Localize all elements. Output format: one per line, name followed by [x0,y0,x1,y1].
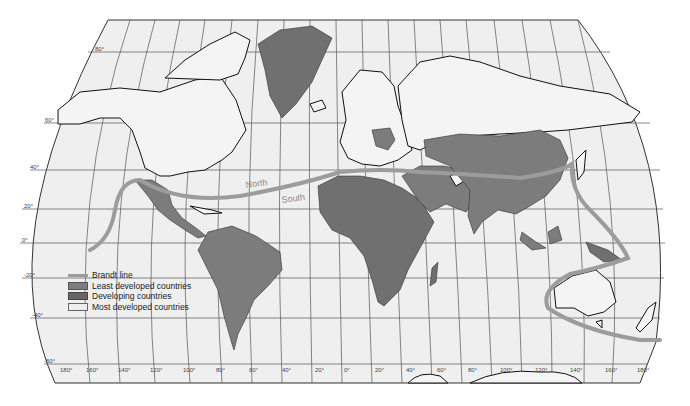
legend-item-brandt-line: Brandt line [68,270,191,280]
legend: Brandt line Least developed countries De… [68,270,191,312]
longitude-tick-label: 160° [605,367,618,373]
latitude-tick-label: 80° [95,46,105,52]
longitude-tick-label: 180° [637,367,650,373]
most-developed-swatch [68,303,88,311]
latitude-tick-label: -40° [32,312,44,318]
latitude-tick-label: 60° [45,117,55,123]
legend-label: Brandt line [92,270,133,280]
longitude-tick-label: 60° [437,367,447,373]
legend-item-least-developed: Least developed countries [68,281,191,291]
least-developed-swatch [68,282,88,290]
longitude-tick-label: 80° [216,367,226,373]
latitude-tick-label: 40° [30,164,40,170]
latitude-tick-label: 0° [22,237,28,243]
longitude-tick-label: 140° [570,367,583,373]
longitude-tick-label: 20° [315,367,325,373]
longitude-tick-label: 120° [150,367,163,373]
longitude-tick-label: 0° [344,367,350,373]
world-map: North South 80°60°40°20°0°-20°-40°-60° 1… [0,0,690,406]
latitude-tick-label: 20° [24,203,34,209]
longitude-tick-label: 100° [500,367,513,373]
longitude-tick-label: 120° [535,367,548,373]
longitude-tick-label: 40° [406,367,416,373]
longitude-tick-label: 40° [282,367,292,373]
latitude-tick-label: -60° [44,358,56,364]
brandt-line-swatch [68,274,88,277]
legend-label: Least developed countries [92,281,191,291]
longitude-tick-label: 140° [118,367,131,373]
legend-label: Developing countries [92,291,171,301]
legend-label: Most developed countries [92,302,189,312]
longitude-tick-label: 180° [60,367,73,373]
longitude-tick-label: 60° [249,367,259,373]
longitude-tick-label: 160° [86,367,99,373]
longitude-tick-label: 20° [375,367,385,373]
legend-item-developing: Developing countries [68,291,191,301]
longitude-tick-label: 80° [468,367,478,373]
longitude-tick-label: 100° [183,367,196,373]
latitude-tick-label: -20° [24,272,36,278]
developing-swatch [68,292,88,300]
legend-item-most-developed: Most developed countries [68,302,191,312]
